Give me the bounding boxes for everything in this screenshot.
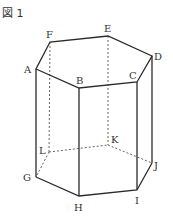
vertex-label-E: E xyxy=(104,23,111,34)
vertex-label-F: F xyxy=(46,29,53,40)
edge-FL xyxy=(49,42,50,152)
vertex-label-J: J xyxy=(153,160,158,171)
vertex-label-C: C xyxy=(129,70,137,81)
hidden-edges xyxy=(36,36,152,177)
vertex-label-H: H xyxy=(74,202,83,213)
vertex-label-D: D xyxy=(154,51,162,62)
visible-edges xyxy=(36,36,152,196)
vertex-label-K: K xyxy=(111,134,119,145)
vertex-label-A: A xyxy=(23,64,32,75)
bottom-front-edges xyxy=(36,163,152,196)
edge-KJ xyxy=(108,145,152,163)
vertex-label-G: G xyxy=(23,172,31,183)
vertex-label-B: B xyxy=(76,75,83,86)
vertex-label-I: I xyxy=(135,195,139,206)
hexagonal-prism-diagram: A B C D E F G H I J K L xyxy=(0,0,173,222)
vertex-label-L: L xyxy=(39,145,46,156)
